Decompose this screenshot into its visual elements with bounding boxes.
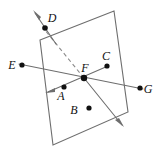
point-label-a: A <box>56 89 65 103</box>
arrow-upper-left-icon <box>33 10 41 20</box>
point-label-g: G <box>144 82 153 96</box>
point-dot-b <box>86 105 91 110</box>
arrow-lower-right-icon <box>115 118 124 127</box>
geometry-diagram: A B C D E F G <box>0 0 168 153</box>
point-label-d: D <box>47 11 57 25</box>
point-label-f: F <box>80 61 89 75</box>
point-label-b: B <box>70 103 78 117</box>
point-dot-f <box>81 75 87 81</box>
point-dot-e <box>19 62 24 67</box>
point-dot-c <box>104 63 109 68</box>
point-label-c: C <box>102 49 111 63</box>
geometry-canvas: A B C D E F G <box>0 0 168 153</box>
point-dot-g <box>137 85 142 90</box>
point-dot-d <box>42 25 48 31</box>
point-label-e: E <box>7 58 16 72</box>
